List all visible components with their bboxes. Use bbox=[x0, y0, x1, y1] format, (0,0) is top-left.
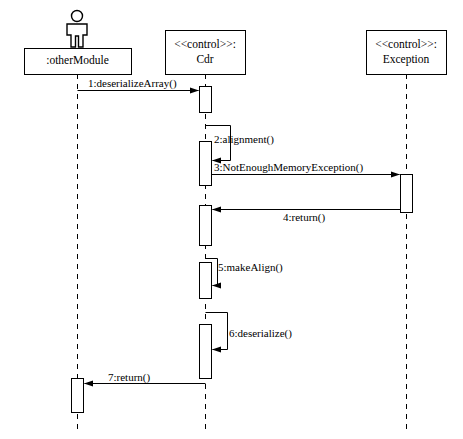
lifeline-name-cdr: Cdr bbox=[165, 53, 245, 65]
message-label-5: 5:makeAlign() bbox=[218, 262, 283, 274]
actor-head bbox=[72, 11, 83, 22]
activation-bar-act-cdr-3[interactable] bbox=[200, 206, 212, 246]
lifeline-name-otherModule: :otherModule bbox=[24, 54, 131, 66]
message-label-7: 7:return() bbox=[108, 372, 150, 384]
activation-bar-act-cdr-5[interactable] bbox=[200, 325, 212, 379]
actor-body bbox=[67, 24, 87, 47]
activation-bar-act-cdr-1[interactable] bbox=[200, 87, 212, 113]
activation-bar-act-other-1[interactable] bbox=[72, 379, 84, 413]
lifeline-name-exception: Exception bbox=[366, 53, 446, 65]
message-label-6: 6:deserialize() bbox=[229, 328, 292, 340]
message-label-2: 2:alignment() bbox=[214, 134, 274, 146]
lifeline-stereotype-exception: <<control>>: bbox=[366, 38, 446, 50]
activation-bar-act-cdr-2[interactable] bbox=[200, 142, 212, 186]
activation-bar-act-exc-1[interactable] bbox=[401, 175, 413, 213]
actor-stick-figure-icon bbox=[67, 11, 87, 48]
activation-bar-act-cdr-4[interactable] bbox=[200, 263, 212, 299]
lifeline-stereotype-cdr: <<control>>: bbox=[165, 38, 245, 50]
sequence-diagram-canvas: :otherModule<<control>>:Cdr<<control>>:E… bbox=[0, 0, 463, 439]
message-label-4: 4:return() bbox=[283, 212, 325, 224]
message-label-1: 1:deserializeArray() bbox=[88, 78, 177, 90]
message-label-3: 3:NotEnoughMemoryException() bbox=[214, 162, 363, 174]
actor-figure-group bbox=[67, 11, 87, 48]
